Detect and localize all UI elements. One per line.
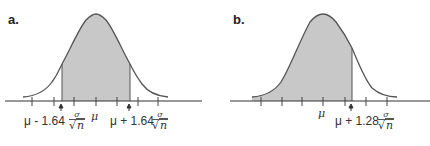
panel-b-upper-bound-label: μ + 1.28 (335, 114, 379, 128)
panel-a-figure (5, 14, 202, 111)
panel-a-upper-fraction: σ √n (152, 110, 168, 132)
panel-a-lower-bound-label: μ - 1.64 (24, 114, 65, 128)
panel-a-lower-fraction: σ √n (69, 110, 85, 132)
panel-a-upper-bound-label: μ + 1.64 (110, 114, 154, 128)
panel-a-mu-label: μ (91, 110, 98, 123)
sqrt-icon: √ (69, 119, 76, 132)
sqrt-icon: √ (152, 119, 159, 132)
n-symbol: n (159, 118, 168, 132)
panel-b-arrows (349, 104, 353, 111)
panel-b-figure (230, 14, 430, 111)
sqrt-icon: √ (378, 119, 385, 132)
n-symbol: n (385, 118, 394, 132)
panel-a-label: a. (8, 12, 19, 27)
panel-b-mu-label: μ (318, 107, 325, 120)
panel-b-shaded-area (252, 14, 352, 101)
panel-b-upper-fraction: σ √n (378, 110, 394, 132)
n-symbol: n (76, 118, 85, 132)
panel-b-label: b. (233, 12, 245, 27)
panel-a-shaded-area (62, 14, 130, 101)
